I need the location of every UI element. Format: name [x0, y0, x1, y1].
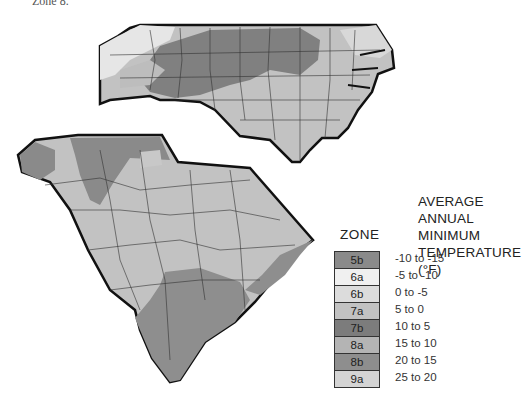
zone-swatch: 7b: [334, 319, 380, 337]
zone-swatch: 5b: [334, 251, 380, 269]
temperature-header-line-1: AVERAGE: [418, 193, 526, 210]
legend-row-9a: 9a 25 to 20: [334, 370, 526, 387]
zone-range: 15 to 10: [395, 337, 437, 349]
zone-range: 20 to 15: [395, 354, 437, 366]
zone-range: -10 to -15: [395, 252, 444, 264]
zone-header: ZONE: [340, 227, 380, 242]
legend-row-6a: 6a -5 to -10: [334, 268, 526, 285]
zone-swatch: 8a: [334, 336, 380, 354]
zone-swatch: 6b: [334, 285, 380, 303]
legend-row-6b: 6b 0 to -5: [334, 285, 526, 302]
legend-row-7b: 7b 10 to 5: [334, 319, 526, 336]
zone-range: 5 to 0: [395, 303, 424, 315]
zone-range: 10 to 5: [395, 320, 430, 332]
legend-row-7a: 7a 5 to 0: [334, 302, 526, 319]
zone-swatch: 9a: [334, 370, 380, 388]
zone-range: 0 to -5: [395, 286, 428, 298]
south-carolina-map: [18, 135, 313, 382]
legend-row-8a: 8a 15 to 10: [334, 336, 526, 353]
temperature-header-line-2: ANNUAL MINIMUM: [418, 210, 526, 244]
zone-range: 25 to 20: [395, 371, 437, 383]
zone-swatch: 6a: [334, 268, 380, 286]
legend-row-8b: 8b 20 to 15: [334, 353, 526, 370]
zone-range: -5 to -10: [395, 269, 438, 281]
zone-swatch: 8b: [334, 353, 380, 371]
legend-row-5b: 5b -10 to -15: [334, 251, 526, 268]
zone-swatch: 7a: [334, 302, 380, 320]
